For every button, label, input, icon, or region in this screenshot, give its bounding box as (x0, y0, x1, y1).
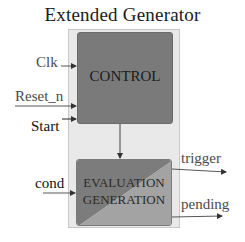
trigger-arrow (172, 169, 226, 172)
pending-arrow (172, 216, 222, 217)
signal-arrows (0, 0, 245, 242)
